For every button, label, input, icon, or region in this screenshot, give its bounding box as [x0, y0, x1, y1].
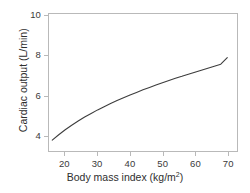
x-axis-label-tail: ): [180, 171, 184, 183]
y-axis-label: Cardiac output (L/min): [18, 5, 29, 155]
x-tick-mark: [228, 152, 229, 156]
y-tick-mark: [44, 55, 48, 56]
x-axis-label-text: Body mass index (kg/m: [67, 171, 176, 183]
y-tick-mark: [44, 15, 48, 16]
series-line-cardiac-output: [52, 58, 227, 140]
x-tick-label: 40: [115, 159, 145, 169]
x-tick-label: 50: [148, 159, 178, 169]
data-curve-svg: [49, 14, 237, 151]
x-axis-label: Body mass index (kg/m2): [0, 172, 250, 183]
x-tick-label: 20: [49, 159, 79, 169]
x-tick-mark: [130, 152, 131, 156]
x-tick-mark: [195, 152, 196, 156]
x-tick-mark: [163, 152, 164, 156]
y-tick-mark: [44, 136, 48, 137]
plot-area: [48, 13, 238, 152]
cardiac-output-bmi-chart: 46810 203040506070 Body mass index (kg/m…: [0, 0, 250, 193]
x-tick-label: 70: [213, 159, 243, 169]
x-tick-label: 60: [180, 159, 210, 169]
x-tick-mark: [97, 152, 98, 156]
x-tick-label: 30: [82, 159, 112, 169]
y-tick-mark: [44, 96, 48, 97]
x-tick-mark: [64, 152, 65, 156]
